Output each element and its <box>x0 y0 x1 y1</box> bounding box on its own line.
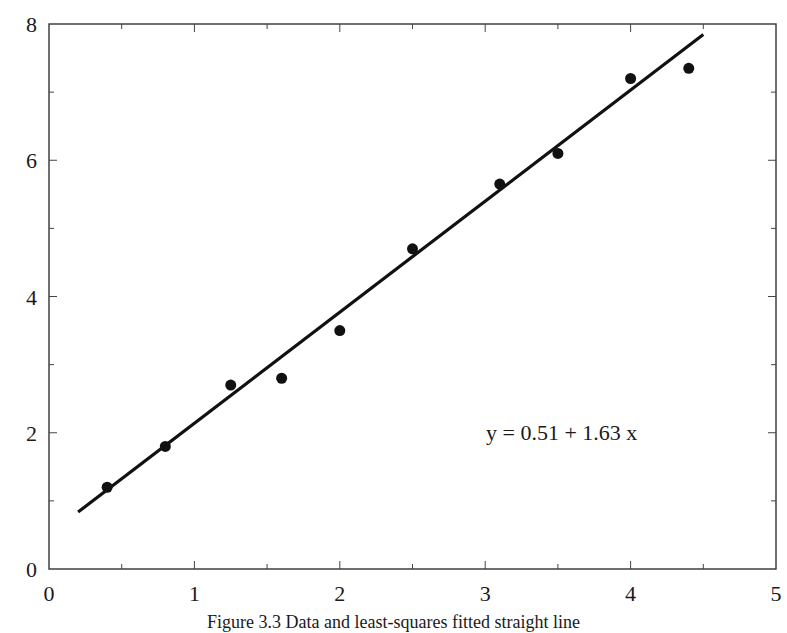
data-point <box>160 441 171 452</box>
y-tick-label: 8 <box>26 12 37 37</box>
y-tick-label: 6 <box>26 148 37 173</box>
x-tick-label: 0 <box>44 581 55 606</box>
data-point <box>225 380 236 391</box>
x-tick-label: 2 <box>334 581 345 606</box>
equation-label: y = 0.51 + 1.63 x <box>486 420 637 445</box>
data-point <box>625 73 636 84</box>
data-point <box>494 179 505 190</box>
axis-ticks <box>49 24 776 569</box>
data-point <box>102 482 113 493</box>
y-tick-label: 4 <box>26 285 37 310</box>
x-tick-label: 1 <box>189 581 200 606</box>
data-point <box>407 243 418 254</box>
y-tick-label: 2 <box>26 421 37 446</box>
data-point <box>334 325 345 336</box>
axis-tick-labels: 01234502468 <box>26 12 782 606</box>
x-tick-label: 4 <box>625 581 636 606</box>
data-point <box>683 63 694 74</box>
data-point <box>552 148 563 159</box>
plot-frame <box>49 24 776 569</box>
x-tick-label: 5 <box>771 581 782 606</box>
figure-caption: Figure 3.3 Data and least-squares fitted… <box>0 612 787 633</box>
data-point <box>276 373 287 384</box>
plot-border <box>49 24 776 569</box>
y-tick-label: 0 <box>26 557 37 582</box>
x-tick-label: 3 <box>480 581 491 606</box>
